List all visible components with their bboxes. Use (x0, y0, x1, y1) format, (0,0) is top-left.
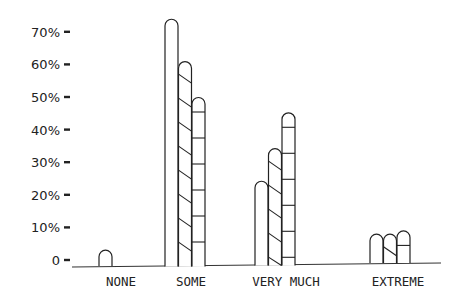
bar-chart: 010%20%30%40%50%60%70% NONESOMEVERY MUCH… (0, 0, 466, 307)
bar-horizontal-very-much (282, 113, 295, 266)
bar-group-some (165, 19, 205, 266)
x-category-label: NONE (106, 274, 136, 289)
y-tick-label: 30% (31, 155, 60, 170)
y-tick-label: 60% (31, 57, 60, 72)
y-tick-label: 50% (31, 90, 60, 105)
bar-group-extreme (370, 231, 410, 263)
bar-groups (99, 19, 410, 266)
y-tick-label: 10% (31, 220, 60, 235)
x-category-label: VERY MUCH (252, 274, 320, 289)
bar-diagonal-some (179, 62, 192, 267)
bar-none-extreme (370, 234, 383, 263)
bar-none-none (99, 250, 112, 266)
x-category-label: SOME (176, 274, 206, 289)
bar-none-some (165, 19, 178, 266)
x-axis-labels: NONESOMEVERY MUCHEXTREME (106, 274, 424, 289)
y-tick-label: 0 (52, 253, 60, 268)
y-tick-label: 70% (31, 25, 60, 40)
bar-group-none (99, 250, 112, 266)
x-category-label: EXTREME (372, 274, 425, 289)
y-axis: 010%20%30%40%50%60%70% (31, 25, 70, 268)
y-tick-label: 40% (31, 123, 60, 138)
bar-horizontal-extreme (397, 231, 410, 263)
y-tick-label: 20% (31, 188, 60, 203)
bar-horizontal-some (192, 98, 205, 267)
bar-none-very-much (255, 181, 268, 265)
bar-group-very-much (255, 113, 295, 266)
